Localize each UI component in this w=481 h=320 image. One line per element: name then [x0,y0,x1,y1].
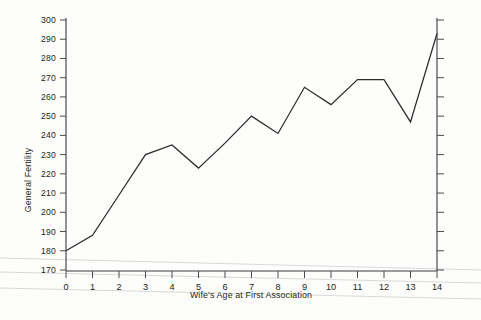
right-axis-tick-marks [437,20,444,270]
y-tick-label: 290 [41,34,56,44]
right-axis [437,18,444,271]
x-tick-label: 11 [353,282,363,292]
y-tick-label: 190 [41,227,56,237]
x-tick-label: 4 [169,282,174,292]
x-tick-label: 14 [432,282,442,292]
x-tick-label: 10 [326,282,336,292]
y-axis: 1701801902002102202302402502602702802903… [23,15,66,275]
x-tick-label: 2 [116,282,121,292]
x-tick-label: 3 [143,282,148,292]
data-series-group [66,33,437,250]
y-tick-label: 280 [41,53,56,63]
y-tick-label: 260 [41,92,56,102]
general-fertility-line-chart: 1701801902002102202302402502602702802903… [0,0,481,320]
y-tick-label: 170 [41,265,56,275]
x-tick-label: 13 [405,282,415,292]
y-tick-label: 250 [41,111,56,121]
series-general-fertility [66,33,437,250]
x-tick-label: 1 [90,282,95,292]
x-axis: 01234567891011121314 Wife's Age at First… [63,271,442,300]
y-tick-labels: 1701801902002102202302402502602702802903… [41,15,56,275]
y-tick-label: 240 [41,130,56,140]
x-tick-label: 0 [63,282,68,292]
y-tick-label: 200 [41,207,56,217]
x-tick-label: 12 [379,282,389,292]
x-axis-title: Wife's Age at First Association [190,290,312,300]
y-tick-marks [60,20,66,270]
y-tick-label: 230 [41,150,56,160]
y-tick-label: 180 [41,246,56,256]
y-tick-label: 220 [41,169,56,179]
y-tick-label: 300 [41,15,56,25]
y-tick-label: 210 [41,188,56,198]
y-axis-title: General Fertility [23,147,33,212]
chart-container: 1701801902002102202302402502602702802903… [0,0,481,320]
y-tick-label: 270 [41,73,56,83]
